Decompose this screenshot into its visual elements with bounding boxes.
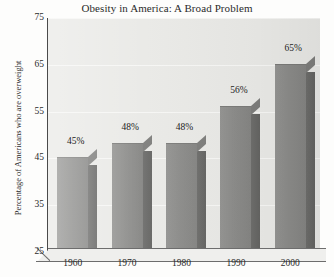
bar-side-face [197, 151, 206, 252]
bar-front-face [166, 143, 197, 252]
y-axis-line [47, 18, 48, 254]
y-tick-label: 75 [4, 12, 44, 22]
gridline [48, 18, 320, 19]
y-tick-label: 55 [4, 106, 44, 116]
x-tick-label: 1970 [97, 258, 157, 268]
floor-top-edge [48, 248, 326, 249]
bar-value-label: 48% [159, 122, 211, 132]
bar-front-face [220, 106, 251, 252]
bar-value-label: 45% [50, 136, 102, 146]
x-tick-label: 1960 [43, 258, 103, 268]
chart-figure: Obesity in America: A Broad Problem Perc… [0, 0, 334, 277]
bar [220, 107, 251, 252]
x-tick-label: 1990 [206, 258, 266, 268]
bar-side-face [251, 114, 260, 252]
y-tick-label: 65 [4, 59, 44, 69]
y-tick-label: 45 [4, 152, 44, 162]
plot-area [48, 18, 320, 252]
bar [112, 144, 143, 252]
y-tick-label: 25 [4, 246, 44, 256]
bar [275, 65, 306, 252]
x-tick-label: 2000 [260, 258, 320, 268]
bar-value-label: 48% [104, 122, 156, 132]
bar-top-face [197, 135, 206, 152]
bar-top-face [88, 149, 97, 166]
bar-side-face [306, 72, 315, 252]
bar-value-label: 56% [213, 85, 265, 95]
bar-front-face [57, 157, 88, 252]
y-tick-label: 35 [4, 199, 44, 209]
bar-side-face [143, 151, 152, 252]
x-tick-label: 1980 [152, 258, 212, 268]
bar-value-label: 65% [267, 43, 319, 53]
bar-top-face [306, 56, 315, 73]
bar-side-face [88, 165, 97, 252]
bar-top-face [143, 135, 152, 152]
bar [57, 158, 88, 252]
chart-title: Obesity in America: A Broad Problem [0, 2, 334, 14]
bar-front-face [112, 143, 143, 252]
bar-front-face [275, 64, 306, 252]
bar [166, 144, 197, 252]
